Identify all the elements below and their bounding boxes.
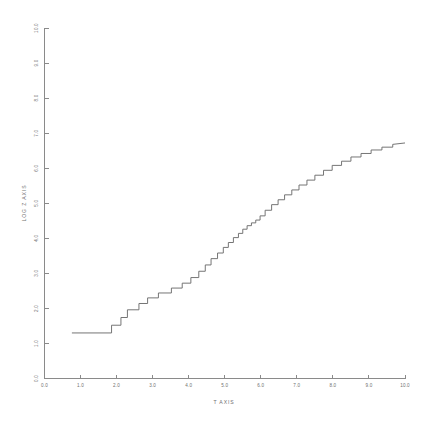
y-tick-label: 1.0	[34, 340, 39, 347]
x-tick-label: 8.0	[329, 383, 336, 388]
y-tick-label: 9.0	[34, 59, 39, 66]
y-tick-label: 2.0	[34, 305, 39, 312]
x-tick-label: 1.0	[77, 383, 84, 388]
x-tick-label: 5.0	[221, 383, 228, 388]
x-tick-label: 10.0	[400, 383, 410, 388]
x-tick-label: 3.0	[149, 383, 156, 388]
x-tick-label: 4.0	[185, 383, 192, 388]
y-tick-label: 5.0	[34, 200, 39, 207]
y-axis-title: LOG Z AXIS	[21, 184, 27, 221]
y-tick-label: 6.0	[34, 164, 39, 171]
y-tick-label: 7.0	[34, 129, 39, 136]
y-tick-label: 8.0	[34, 94, 39, 101]
y-tick-label: 0.0	[34, 375, 39, 382]
x-tick-label: 2.0	[113, 383, 120, 388]
x-tick-label: 6.0	[257, 383, 264, 388]
y-tick-label: 4.0	[34, 235, 39, 242]
chart-container: 0.01.02.03.04.05.06.07.08.09.010.0 0.01.…	[0, 0, 436, 425]
y-tick-label: 10.0	[34, 23, 39, 33]
x-axis-title: T AXIS	[213, 399, 234, 405]
x-tick-label: 0.0	[41, 383, 48, 388]
x-tick-label: 9.0	[365, 383, 372, 388]
plot-background	[0, 0, 436, 425]
y-tick-label: 3.0	[34, 270, 39, 277]
x-tick-label: 7.0	[293, 383, 300, 388]
plot-canvas: 0.01.02.03.04.05.06.07.08.09.010.0 0.01.…	[0, 0, 436, 425]
